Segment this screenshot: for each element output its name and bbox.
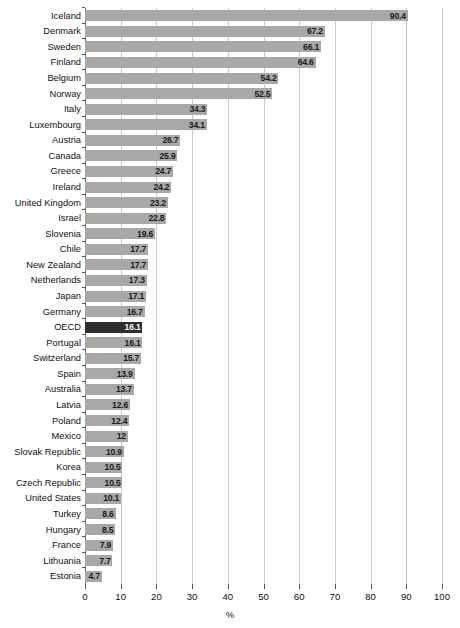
y-axis-tick — [82, 163, 85, 164]
bar-value-label: 52.5 — [255, 89, 271, 99]
y-axis-tick — [82, 7, 85, 8]
y-axis-tick — [82, 443, 85, 444]
x-axis-tick — [264, 584, 265, 589]
x-axis-tick-label: 50 — [258, 591, 269, 602]
y-axis-tick — [82, 490, 85, 491]
category-label: Belgium — [47, 73, 81, 83]
x-axis-tick-labels: 0102030405060708090100 — [85, 591, 442, 605]
x-axis-tick — [192, 584, 193, 589]
bar-row: Belgium54.2 — [85, 70, 442, 86]
category-label: Estonia — [50, 571, 81, 581]
bar-row: Hungary8.5 — [85, 522, 442, 538]
x-axis-tick-label: 80 — [365, 591, 376, 602]
bar-value-label: 22.8 — [148, 213, 164, 223]
bar — [85, 41, 321, 52]
category-label: Korea — [56, 462, 81, 472]
y-axis-tick — [82, 225, 85, 226]
y-axis-tick — [82, 54, 85, 55]
category-label: Finland — [51, 57, 82, 67]
category-label: Latvia — [56, 400, 81, 410]
x-axis-tick — [121, 584, 122, 589]
bar-row: Finland64.6 — [85, 55, 442, 71]
category-label: Austria — [52, 135, 81, 145]
category-label: United Kingdom — [15, 198, 81, 208]
x-axis-label: % — [0, 609, 460, 620]
bar-row: New Zealand17.7 — [85, 257, 442, 273]
bar-row: Iceland90.4 — [85, 8, 442, 24]
bar-value-label: 17.1 — [128, 291, 144, 301]
bar-value-label: 13.7 — [116, 384, 132, 394]
y-axis-tick — [82, 132, 85, 133]
x-axis-tick-label: 70 — [330, 591, 341, 602]
bar-row: Sweden66.1 — [85, 39, 442, 55]
bar-rows: Iceland90.4Denmark67.2Sweden66.1Finland6… — [85, 8, 442, 584]
x-axis-tick — [442, 584, 443, 589]
category-label: New Zealand — [26, 260, 81, 270]
bar-value-label: 24.7 — [155, 166, 171, 176]
bar-value-label: 4.7 — [88, 571, 99, 581]
bar-value-label: 34.1 — [189, 120, 205, 130]
bar-row: Norway52.5 — [85, 86, 442, 102]
bar-row: Canada25.9 — [85, 148, 442, 164]
bar-value-label: 10.5 — [105, 478, 121, 488]
bar-row: Turkey8.6 — [85, 506, 442, 522]
y-axis-tick — [82, 505, 85, 506]
category-label: France — [52, 540, 81, 550]
category-label: Poland — [52, 416, 81, 426]
y-axis-tick — [82, 272, 85, 273]
bar-row: Israel22.8 — [85, 210, 442, 226]
x-axis-tick-label: 60 — [294, 591, 305, 602]
y-axis-tick — [82, 412, 85, 413]
bar-value-label: 16.1 — [125, 338, 141, 348]
chart-title — [0, 0, 460, 6]
y-axis-tick — [82, 349, 85, 350]
bar-row: Denmark67.2 — [85, 24, 442, 40]
plot-area: Iceland90.4Denmark67.2Sweden66.1Finland6… — [85, 8, 442, 584]
bar-row: Slovak Republic10.9 — [85, 444, 442, 460]
category-label: Chile — [60, 244, 81, 254]
bar-row: Korea10.5 — [85, 459, 442, 475]
bar-value-label: 17.3 — [129, 275, 145, 285]
category-label: Iceland — [51, 11, 81, 21]
x-axis-tick — [406, 584, 407, 589]
category-label: Germany — [43, 307, 81, 317]
category-label: Norway — [49, 89, 81, 99]
y-axis-tick — [82, 552, 85, 553]
bar-value-label: 12.6 — [112, 400, 128, 410]
bar-row: Germany16.7 — [85, 304, 442, 320]
bar-value-label: 25.9 — [160, 151, 176, 161]
x-axis-tick — [371, 584, 372, 589]
y-axis-tick — [82, 209, 85, 210]
bar-value-label: 10.5 — [105, 462, 121, 472]
category-label: Hungary — [46, 525, 81, 535]
bar-row: Chile17.7 — [85, 242, 442, 258]
bar-row: Australia13.7 — [85, 382, 442, 398]
bar-row: Greece24.7 — [85, 164, 442, 180]
category-label: Luxembourg — [29, 120, 81, 130]
category-label: Denmark — [43, 26, 81, 36]
bar-value-label: 66.1 — [303, 42, 319, 52]
bar-row: Netherlands17.3 — [85, 273, 442, 289]
y-axis-tick — [82, 458, 85, 459]
bar-value-label: 64.6 — [298, 57, 314, 67]
bar-row: Luxembourg34.1 — [85, 117, 442, 133]
bar-row: Portugal16.1 — [85, 335, 442, 351]
bar-value-label: 17.7 — [130, 244, 146, 254]
y-axis-tick — [82, 287, 85, 288]
x-axis-tick — [85, 584, 86, 589]
category-label: OECD — [54, 322, 81, 332]
bar-row: Mexico12 — [85, 428, 442, 444]
bar-value-label: 26.7 — [162, 135, 178, 145]
bar-row: United States10.1 — [85, 491, 442, 507]
bar-row: Slovenia19.6 — [85, 226, 442, 242]
bar-row: United Kingdom23.2 — [85, 195, 442, 211]
y-axis-tick — [82, 521, 85, 522]
bar-value-label: 24.2 — [153, 182, 169, 192]
x-axis-tick-label: 0 — [82, 591, 87, 602]
category-label: Mexico — [52, 431, 81, 441]
bar-row: Switzerland15.7 — [85, 350, 442, 366]
bar — [85, 88, 272, 99]
y-axis-tick — [82, 85, 85, 86]
bar-row: Latvia12.6 — [85, 397, 442, 413]
category-label: Lithuania — [43, 556, 81, 566]
